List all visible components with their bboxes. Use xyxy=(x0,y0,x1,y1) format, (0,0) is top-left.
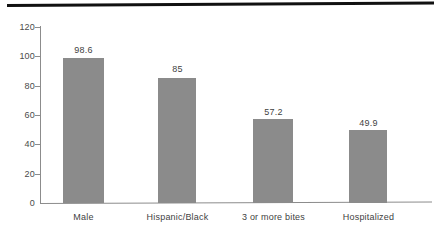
y-tick-label-40-wrap: 40 xyxy=(0,140,35,149)
bar-value-hispanic-black: 85 xyxy=(147,65,208,74)
bar-value-male: 98.6 xyxy=(53,46,114,55)
y-tick-label-60: 60 xyxy=(7,111,35,120)
y-tick-label-0: 0 xyxy=(7,199,35,208)
y-tick-label-100-wrap: 100 xyxy=(0,52,35,61)
y-tick-label-40: 40 xyxy=(7,140,35,149)
y-tick-120 xyxy=(35,27,40,28)
y-tick-label-120-wrap: 120 xyxy=(0,23,35,32)
y-tick-label-100: 100 xyxy=(7,52,35,61)
y-tick-60 xyxy=(35,115,40,116)
y-tick-label-20-wrap: 20 xyxy=(0,170,35,179)
bar-value-hospitalized: 49.9 xyxy=(338,119,399,128)
y-tick-100 xyxy=(35,56,40,57)
y-tick-label-0-wrap: 0 xyxy=(0,199,35,208)
bar-hospitalized[interactable] xyxy=(349,130,387,203)
bar-three-or-more-bites[interactable] xyxy=(253,119,293,203)
y-axis-line xyxy=(40,26,41,204)
y-tick-label-60-wrap: 60 xyxy=(0,111,35,120)
y-tick-40 xyxy=(35,144,40,145)
y-tick-label-120: 120 xyxy=(7,23,35,32)
bar-chart-figure: 120 100 80 60 40 20 0 98.6 85 57. xyxy=(0,0,434,235)
y-tick-label-20: 20 xyxy=(7,170,35,179)
category-label-hospitalized: Hospitalized xyxy=(313,212,424,222)
y-tick-80 xyxy=(35,86,40,87)
y-tick-label-80-wrap: 80 xyxy=(0,82,35,91)
plot-area: 120 100 80 60 40 20 0 98.6 85 57. xyxy=(0,0,434,235)
y-tick-label-80: 80 xyxy=(7,82,35,91)
category-label-hispanic-black: Hispanic/Black xyxy=(122,212,233,222)
bar-hispanic-black[interactable] xyxy=(158,78,196,203)
y-tick-20 xyxy=(35,174,40,175)
bar-value-three-or-more-bites: 57.2 xyxy=(243,108,304,117)
bar-male[interactable] xyxy=(63,58,104,203)
